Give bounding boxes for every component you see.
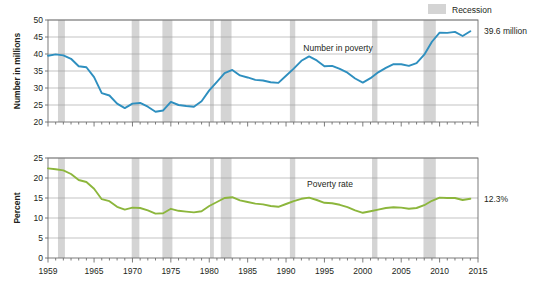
poverty-chart-figure: 20253035404550Number in millionsNumber i… [0,0,560,285]
y-axis: 0510152025 [34,153,48,263]
x-tick-label: 1965 [85,266,104,276]
y-tick-label: 0 [38,253,43,263]
panel-poverty-rate: 0510152025195919651970197519801985199019… [12,153,509,276]
y-tick-label: 45 [34,32,44,42]
x-tick-label: 1990 [277,266,296,276]
y-tick-label: 20 [34,173,44,183]
y-tick-label: 30 [34,83,44,93]
x-axis [48,122,478,127]
x-tick-label: 2010 [430,266,449,276]
x-tick-label: 1970 [123,266,142,276]
legend-swatch-recession [428,4,446,14]
x-axis: 1959196519701975198019851990199520002005… [39,258,488,276]
x-tick-label: 2005 [392,266,411,276]
x-tick-label: 1985 [238,266,257,276]
recession-band [372,158,377,258]
series-label: Poverty rate [307,179,353,189]
recession-band [423,158,435,258]
axis-title-percent: Percent [12,192,22,223]
end-label-number: 39.6 million [484,26,527,36]
x-tick-label: 1959 [39,266,58,276]
x-tick-label: 1995 [315,266,334,276]
legend: Recession [428,4,492,15]
end-label-rate: 12.3% [484,194,509,204]
axis-title-number-in-millions: Number in millions [12,32,22,109]
series-label: Number in poverty [303,43,373,53]
panel-number-in-poverty: 20253035404550Number in millionsNumber i… [12,15,527,127]
y-tick-label: 5 [38,233,43,243]
y-tick-label: 35 [34,66,44,76]
recession-band [290,158,295,258]
x-tick-label: 1980 [200,266,219,276]
x-tick-label: 2015 [469,266,488,276]
x-tick-label: 1975 [161,266,180,276]
y-tick-label: 10 [34,213,44,223]
y-tick-label: 40 [34,49,44,59]
x-tick-label: 2000 [353,266,372,276]
y-tick-label: 25 [34,153,44,163]
y-tick-label: 20 [34,117,44,127]
y-tick-label: 25 [34,100,44,110]
y-tick-label: 50 [34,15,44,25]
y-axis: 20253035404550 [34,15,48,127]
legend-label-recession: Recession [452,5,492,15]
recession-band [210,158,214,258]
recession-band [221,158,232,258]
recession-band [58,158,65,258]
y-tick-label: 15 [34,193,44,203]
chart-canvas: 20253035404550Number in millionsNumber i… [0,0,560,285]
